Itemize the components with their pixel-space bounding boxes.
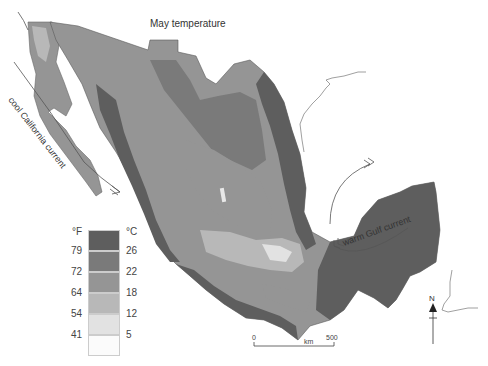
north-arrow-icon	[429, 303, 437, 312]
legend-swatch	[88, 230, 120, 251]
legend-swatch	[88, 335, 120, 356]
scale-end: 500	[326, 334, 338, 341]
legend-label-c: 26	[126, 245, 137, 256]
legend-unit-f: °F	[60, 226, 82, 237]
legend-label-c: 12	[126, 308, 137, 319]
legend-swatch	[88, 272, 120, 293]
scale-unit: km	[304, 338, 314, 345]
yucatan-hot	[316, 182, 440, 320]
scale-bar	[254, 342, 334, 346]
temperature-legend: °F °C 7926722264185412415	[60, 226, 160, 366]
legend-label-c: 5	[126, 329, 132, 340]
north-arrow-shaft	[429, 312, 437, 344]
legend-label-f: 64	[60, 287, 82, 298]
gulf-current-arrowhead-upper	[364, 158, 374, 168]
legend-label-c: 22	[126, 266, 137, 277]
texas-coastline	[300, 72, 366, 152]
legend-swatch	[88, 314, 120, 335]
legend-label-c: 18	[126, 287, 137, 298]
california-current-arrow	[18, 12, 28, 30]
legend-swatch	[88, 293, 120, 314]
gulf-current-arc-upper	[330, 164, 370, 224]
california-current-arrowhead	[110, 186, 120, 195]
florida-coastline	[442, 270, 478, 312]
legend-label-f: 41	[60, 329, 82, 340]
map-title: May temperature	[150, 18, 226, 29]
north-label: N	[429, 294, 435, 303]
legend-label-f: 79	[60, 245, 82, 256]
legend-unit-c: °C	[126, 226, 137, 237]
scale-start: 0	[252, 334, 256, 341]
legend-label-f: 54	[60, 308, 82, 319]
legend-label-f: 72	[60, 266, 82, 277]
legend-swatch	[88, 251, 120, 272]
